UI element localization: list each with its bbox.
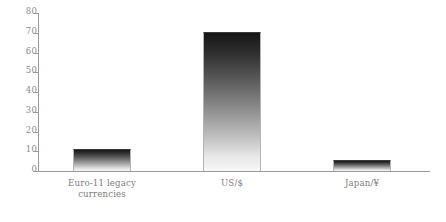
y-axis-tick-label: 70 [26,27,37,36]
y-axis-tick-label: 10 [26,145,37,154]
bar-group [73,13,131,171]
bar-group [333,13,391,171]
y-axis-tick-label: 50 [26,66,37,75]
y-axis-tick-label: 20 [26,126,37,135]
bar[interactable] [203,32,261,171]
plot-area [38,13,430,171]
y-axis-tick-label: 30 [26,106,37,115]
bar[interactable] [333,160,391,171]
x-axis-category-label: US/$ [175,178,289,189]
x-axis-category-label: Japan/¥ [305,178,419,189]
y-axis-tick-label: 60 [26,47,37,56]
y-axis-tick-label: 0 [31,165,37,174]
x-axis-line [38,171,430,172]
y-axis-tick-label: 80 [26,7,37,16]
y-axis-tick-label: 40 [26,86,37,95]
x-axis-category-label: Euro-11 legacy currencies [45,178,159,200]
bar-chart: 80706050403020100 Euro-11 legacy currenc… [0,0,446,222]
bar-group [203,13,261,171]
bar[interactable] [73,149,131,171]
